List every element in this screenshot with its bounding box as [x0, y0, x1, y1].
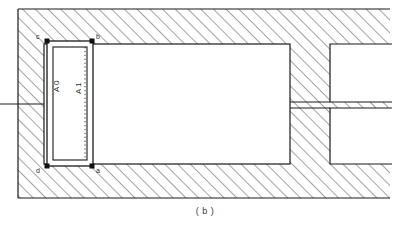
inner-label-a0: A 0 [52, 80, 61, 92]
figure-caption: ( b ) [0, 206, 410, 216]
void-right-lower [330, 108, 392, 164]
corner-label-a: a [96, 167, 100, 174]
void-right-upper [330, 44, 392, 102]
corner-label-d: d [36, 167, 40, 174]
inner-label-a1: A 1 [74, 82, 83, 94]
figure-container: c b d a A 0 A 1 ( b ) [0, 0, 410, 235]
detail-component-inner-wall [53, 47, 87, 160]
corner-label-c: c [36, 33, 40, 40]
cross-section-diagram [0, 0, 410, 235]
corner-label-b: b [96, 33, 100, 40]
